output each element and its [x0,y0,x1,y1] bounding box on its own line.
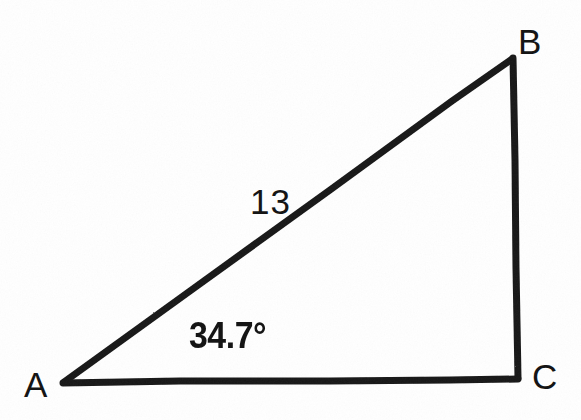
angle-measure-label: 34.7° [189,318,266,354]
vertex-label-c: C [532,359,557,394]
hypotenuse-length-label: 13 [250,184,291,219]
leg-ac [63,379,518,383]
vertex-label-b: B [518,24,541,59]
leg-bc [513,58,518,378]
triangle-figure: A B C 13 34.7° [0,0,581,420]
vertex-label-a: A [24,367,47,402]
